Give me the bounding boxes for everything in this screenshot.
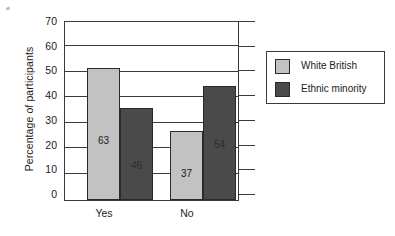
axis-tick-mark [239,169,255,170]
bar-yes-white-british: 63 [87,68,120,200]
legend-swatch-icon [275,59,290,74]
axis-tick-mark [239,70,255,71]
y-tick-label: 70 [31,15,57,27]
axis-tick-mark [239,46,255,47]
chart-figure: Percentage of participants 70 60 50 40 3… [0,0,395,236]
y-axis-tick-labels: 70 60 50 40 30 20 10 0 [29,0,57,236]
bar-yes-ethnic-minority: 46 [120,108,153,200]
y-tick-label: 0 [31,188,57,200]
x-tick-label-no: No [152,207,222,219]
bar-no-ethnic-minority: 54 [203,86,236,200]
bar-value-label: 46 [121,161,152,171]
y-tick-label: 10 [31,163,57,175]
plot-area: 63 46 37 54 [64,21,239,201]
axis-tick-mark [239,120,255,121]
y-tick-label: 30 [31,114,57,126]
axis-tick-mark [239,194,255,195]
axis-tick-mark [239,95,255,96]
legend: White British Ethnic minority [266,51,385,104]
bar-value-label: 63 [88,136,119,146]
axis-tick-mark [239,21,255,22]
y-tick-label: 50 [31,64,57,76]
legend-label: White British [301,60,357,71]
bar-value-label: 54 [204,140,235,150]
bar-no-white-british: 37 [170,131,203,200]
y-tick-label: 60 [31,40,57,52]
y-tick-label: 40 [31,89,57,101]
legend-swatch-icon [275,82,290,97]
scan-speck-artifact [6,6,11,10]
x-tick-label-yes: Yes [69,207,139,219]
y-tick-label: 20 [31,139,57,151]
legend-label: Ethnic minority [301,83,367,94]
gridline [65,45,238,46]
bar-value-label: 37 [171,169,202,179]
axis-tick-mark [239,145,255,146]
